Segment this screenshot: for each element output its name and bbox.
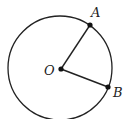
radius-OA: [61, 25, 90, 69]
point-A-label: A: [90, 5, 100, 20]
circle-diagram: O A B: [0, 0, 128, 119]
point-O-dot: [58, 66, 63, 71]
point-B-label: B: [112, 85, 123, 100]
radius-OB: [61, 69, 108, 87]
point-O-label: O: [44, 63, 55, 78]
point-A-dot: [87, 22, 92, 27]
point-B-dot: [105, 84, 110, 89]
